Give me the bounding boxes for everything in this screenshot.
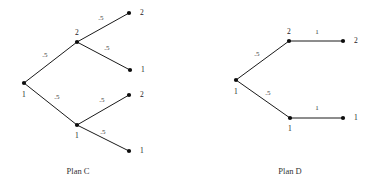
tree-edge [236,41,289,80]
node-payoff-label: 2 [287,28,291,36]
tree-node [75,40,79,44]
node-payoff-label: 2 [75,29,79,37]
node-payoff-label: 2 [140,9,144,17]
edge-probability-label: .5 [98,15,103,22]
edge-probability-label: 1 [315,105,319,112]
edge-probability-label: .5 [42,52,47,59]
tree-edge [24,83,77,125]
edge-probability-label: .5 [104,45,109,52]
tree-node [22,81,26,85]
edges-layer [24,13,343,151]
tree-node [234,78,238,82]
node-payoff-label: 1 [354,114,358,122]
tree-node [128,68,132,72]
node-payoff-label: 1 [234,88,238,96]
edge-probability-label: .5 [99,97,104,104]
node-payoff-label: 1 [22,91,26,99]
edge-probability-label: .5 [100,129,105,136]
tree-node [341,116,345,120]
panel-caption: Plan D [278,167,301,176]
node-payoff-label: 2 [140,91,144,99]
nodes-layer [22,11,345,153]
edge-probability-label: .5 [254,51,259,58]
tree-node [287,39,291,43]
node-payoff-label: 2 [354,37,358,45]
tree-node [288,116,292,120]
node-payoff-label: 1 [288,125,292,133]
edge-probability-label: .5 [54,94,59,101]
tree-node [127,11,131,15]
figure-canvas: .5.5.5.5.5.51212121.5.51112121 Plan CPla… [0,0,377,189]
tree-node [127,93,131,97]
node-payoff-label: 1 [141,66,145,74]
tree-node [127,149,131,153]
edge-probability-label: .5 [265,90,270,97]
tree-edge [236,80,290,118]
tree-node [341,39,345,43]
node-payoff-label: 1 [75,132,79,140]
tree-node [75,123,79,127]
panel-caption: Plan C [67,167,90,176]
node-payoff-label: 1 [140,147,144,155]
tree-edge [24,42,77,83]
edge-probability-label: 1 [315,29,319,36]
